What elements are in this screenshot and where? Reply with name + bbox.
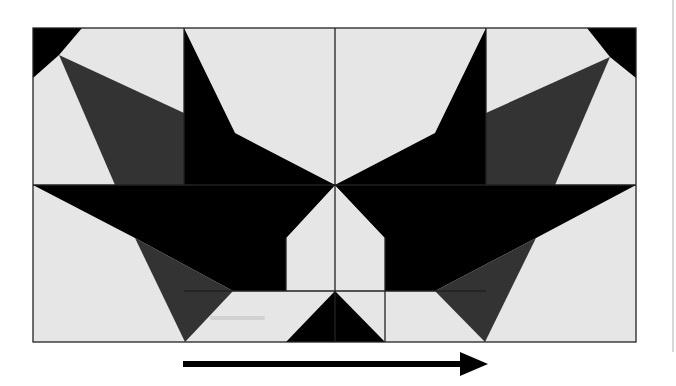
quilt-pattern-diagram [0, 0, 676, 386]
smudge-mark [210, 316, 265, 320]
arrow-right-icon [183, 352, 488, 376]
